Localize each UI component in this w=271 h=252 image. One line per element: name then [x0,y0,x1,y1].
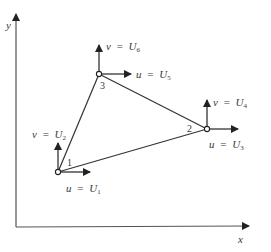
edge-3-2 [99,74,207,129]
node-3-u-label: u = U5 [136,68,171,82]
node-1-marker [55,169,60,174]
triangle-edges [58,74,207,172]
edge-1-2 [58,129,207,172]
node-3: 3 v = U6 u = U5 [96,40,171,91]
node-1-label: 1 [67,157,72,168]
node-1-v-label: v = U2 [32,128,67,142]
x-axis [16,226,249,227]
y-axis-label: y [5,19,11,31]
edge-1-3 [58,74,99,172]
triangle-element-diagram: y x 3 v = U6 u = U5 2 v = U4 [0,0,271,252]
node-3-label: 3 [100,80,105,91]
node-1-u-label: u = U1 [66,182,101,196]
node-2-label: 2 [187,123,192,134]
node-3-v-label: v = U6 [106,40,141,54]
node-2-v-label: v = U4 [213,96,248,110]
node-2-u-label: u = U3 [209,138,244,152]
node-2-marker [204,126,209,131]
node-3-marker [96,71,101,76]
x-axis-label: x [237,233,243,245]
